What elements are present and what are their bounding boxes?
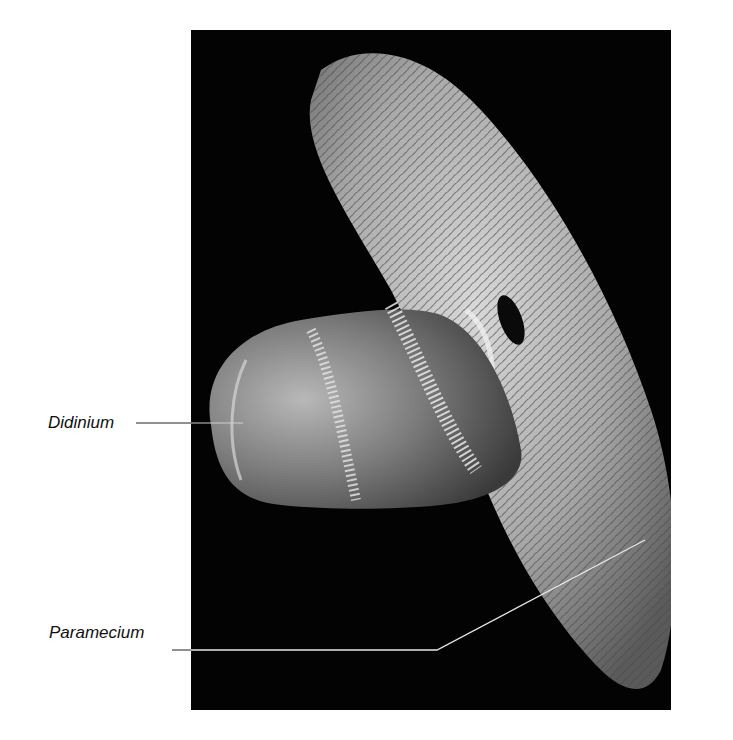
didinium-label: Didinium (48, 413, 114, 433)
paramecium-label: Paramecium (49, 623, 144, 643)
micrograph-illustration (191, 30, 671, 710)
figure: Didinium Paramecium (0, 0, 733, 740)
electron-micrograph (191, 30, 671, 710)
